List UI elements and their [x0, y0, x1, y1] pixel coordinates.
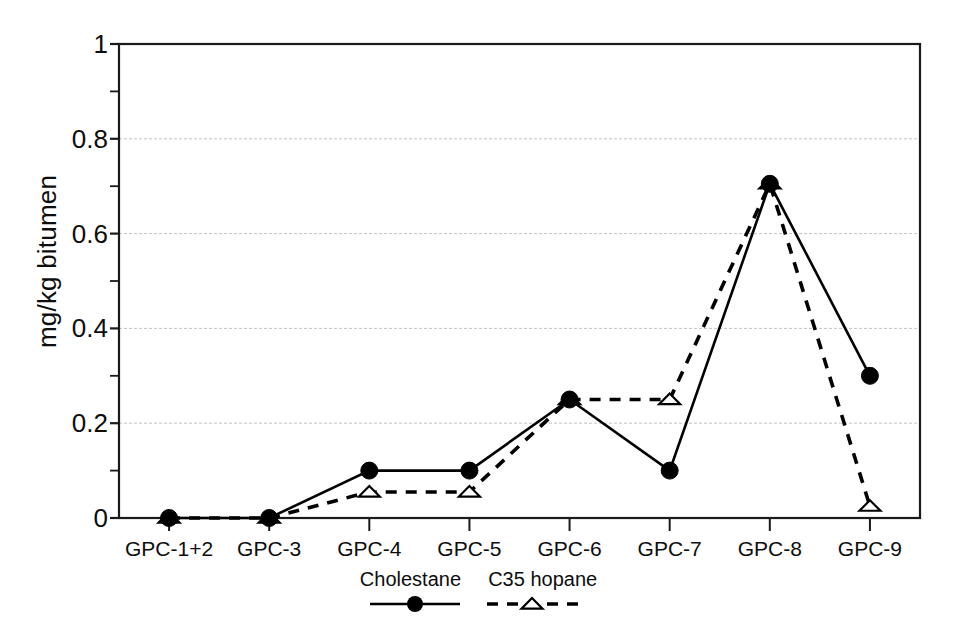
- marker-0-GPC-5: [461, 462, 478, 479]
- x-tick-label-GPC-9: GPC-9: [800, 537, 940, 561]
- plot-frame: [119, 44, 920, 518]
- marker-1-GPC-9: [859, 500, 880, 511]
- legend-key-group: [0, 592, 957, 616]
- marker-1-GPC-5: [459, 486, 480, 497]
- legend-key-marker-c35-hopane: [522, 598, 543, 609]
- series-c35-hopane: [159, 178, 881, 523]
- marker-0-GPC-6: [561, 391, 578, 408]
- marker-0-GPC-7: [661, 462, 678, 479]
- legend-key-marker-cholestane: [407, 596, 423, 612]
- marker-0-GPC-4: [361, 462, 378, 479]
- chart-figure: mg/kg bitumen 00.20.40.60.81 GPC-1+2GPC-…: [0, 0, 957, 633]
- marker-0-GPC-9: [861, 367, 878, 384]
- marker-0-GPC-3: [261, 510, 278, 527]
- marker-0-GPC-8: [761, 175, 778, 192]
- series-cholestane: [161, 175, 879, 526]
- marker-0-GPC-1+2: [161, 510, 178, 527]
- marker-1-GPC-7: [659, 394, 680, 405]
